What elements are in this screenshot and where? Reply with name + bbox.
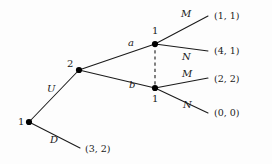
payoff-4-1: (4, 1) <box>214 46 240 56</box>
player-label-n2: 2 <box>67 59 73 69</box>
payoff-1-1: (1, 1) <box>214 11 240 21</box>
node-b[interactable] <box>152 85 158 91</box>
edge-a <box>79 44 155 70</box>
edge-b-M <box>155 78 208 88</box>
edges-group <box>29 16 208 148</box>
action-N-top: N <box>182 52 191 62</box>
node-name-b: b <box>129 80 135 90</box>
edge-b-N <box>155 88 208 113</box>
player-label-a: 1 <box>152 26 158 36</box>
edge-a-M <box>155 16 208 44</box>
action-N-bottom: N <box>183 100 192 110</box>
action-D: D <box>50 135 58 145</box>
node-n2[interactable] <box>76 67 82 73</box>
edge-U <box>29 70 79 122</box>
edge-a-N <box>155 44 208 51</box>
node-a[interactable] <box>152 41 158 47</box>
player-label-root: 1 <box>18 117 24 127</box>
action-U: U <box>47 84 55 94</box>
player-label-b: 1 <box>152 94 158 104</box>
game-tree-figure: UDMNMN (1, 1)(4, 1)(2, 2)(0, 0)(3, 2) 12… <box>0 0 272 164</box>
node-root[interactable] <box>26 119 32 125</box>
action-M-bottom: M <box>182 69 192 79</box>
node-name-a: a <box>128 38 134 48</box>
action-M-top: M <box>181 9 191 19</box>
payoff-2-2: (2, 2) <box>214 74 240 84</box>
edge-b <box>79 70 155 88</box>
payoff-0-0: (0, 0) <box>214 108 240 118</box>
nodes-group <box>26 41 158 125</box>
payoff-3-2: (3, 2) <box>85 144 111 154</box>
